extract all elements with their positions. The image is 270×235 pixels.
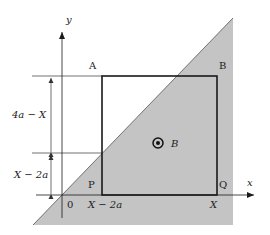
x-axis-label: x: [247, 177, 253, 188]
field-label: B: [170, 138, 178, 149]
origin-label: 0: [67, 199, 73, 210]
dimension-label-upper: 4a − X: [11, 109, 47, 120]
corner-label-q: Q: [219, 179, 227, 190]
corner-label-b: B: [219, 60, 226, 71]
y-axis-label: y: [65, 14, 72, 25]
corner-label-a: A: [88, 60, 97, 71]
diagram-canvas: y x 0 A B P Q B 4a − X X − 2a X − 2a X: [0, 0, 270, 235]
corner-label-p: P: [88, 179, 95, 190]
x-tick-right-edge: X: [209, 199, 218, 210]
dimension-label-lower: X − 2a: [13, 169, 48, 180]
diagram-svg: y x 0 A B P Q B 4a − X X − 2a X − 2a X: [0, 0, 270, 235]
x-tick-left-edge: X − 2a: [87, 199, 122, 210]
